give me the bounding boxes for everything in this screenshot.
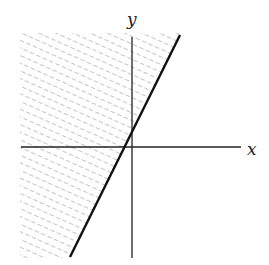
coordinate-plane: x y [0, 0, 269, 265]
x-axis-label: x [247, 139, 257, 159]
y-axis-label: y [126, 9, 137, 29]
